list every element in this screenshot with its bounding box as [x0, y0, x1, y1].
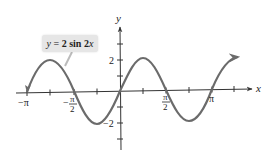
tick-label-half-pi-num: π	[163, 92, 168, 102]
y-axis-label: y	[115, 12, 121, 24]
eq-equals: =	[51, 38, 62, 49]
x-axis-label: x	[255, 82, 261, 94]
annotation-pointer	[65, 52, 72, 66]
tick-label-y-neg-2: −2	[103, 118, 114, 129]
equation-label: y = 2 sin 2 x	[42, 35, 98, 52]
eq-x: x	[89, 38, 93, 49]
tick-label-half-pi-den: 2	[163, 102, 168, 112]
sine-curve	[27, 57, 238, 124]
x-axis	[16, 89, 252, 93]
tick-label-neg-half-pi-sign: −	[63, 97, 69, 108]
tick-label-neg-half-pi-num: π	[70, 94, 75, 104]
tick-label-neg-pi: −π	[18, 97, 29, 108]
tick-label-pi: π	[209, 93, 214, 104]
sine-chart: y x −π − π 2 π 2 π 2 −2	[0, 0, 267, 158]
eq-sin: sin	[67, 38, 84, 49]
tick-label-y-2: 2	[109, 55, 114, 66]
tick-label-neg-half-pi-den: 2	[70, 104, 75, 114]
